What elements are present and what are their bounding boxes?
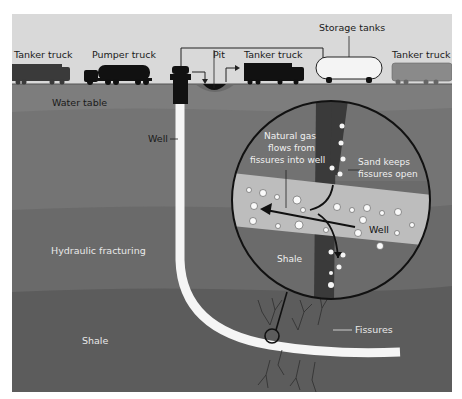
label-inset-shale: Shale (277, 254, 302, 264)
label-inset-sand-1: Sand keeps (358, 157, 410, 167)
label-inset-sand-2: fissures open (358, 169, 418, 179)
label-hydraulic-fracturing: Hydraulic fracturing (51, 245, 146, 256)
sky-background (12, 14, 452, 84)
label-inset-gas-flow-2: flows from (268, 143, 315, 153)
label-shale: Shale (82, 335, 109, 346)
tanker-truck-right-graphic (392, 63, 452, 85)
label-tanker-truck-middle: Tanker truck (243, 49, 303, 60)
label-well: Well (148, 133, 168, 144)
label-tanker-truck-right: Tanker truck (391, 49, 451, 60)
storage-tank-graphic (316, 57, 382, 83)
label-inset-well: Well (369, 224, 389, 235)
label-water-table: Water table (52, 97, 107, 108)
label-tanker-truck-left: Tanker truck (13, 49, 73, 60)
fracking-diagram: Tanker truck Pumper truck Pit Tanker tru… (0, 0, 462, 399)
label-pumper-truck: Pumper truck (92, 49, 157, 60)
wellhead (170, 66, 191, 104)
label-fissures: Fissures (355, 324, 393, 335)
label-inset-gas-flow-1: Natural gas (264, 131, 316, 141)
label-inset-gas-flow-3: fissures into well (250, 155, 325, 165)
label-pit: Pit (213, 49, 225, 60)
inset-magnified-view (232, 100, 432, 300)
label-storage-tanks: Storage tanks (319, 22, 385, 33)
